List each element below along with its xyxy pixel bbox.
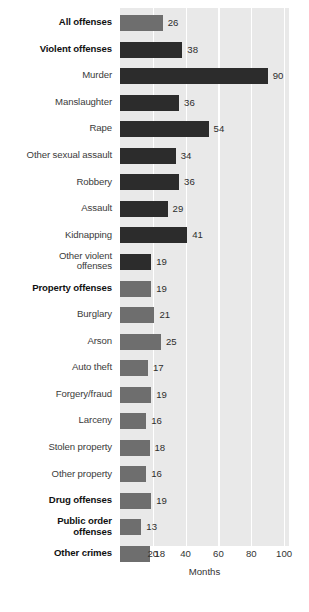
category-label-line1: Robbery — [76, 176, 112, 187]
category-label-line1: Auto theft — [72, 361, 112, 372]
bar-value-label: 18 — [155, 440, 166, 456]
category-label-line1: Stolen property — [48, 441, 112, 452]
category-label: Forgery/fraud — [0, 389, 117, 400]
bar — [120, 307, 154, 323]
category-label-line1: Other crimes — [54, 547, 112, 558]
bar — [120, 174, 179, 190]
bar — [120, 413, 146, 429]
bar — [120, 254, 151, 270]
category-label-line1: Other property — [52, 468, 112, 479]
category-label: Rape — [0, 123, 117, 134]
plot-area: 2638903654343629411919212517191618161913… — [120, 8, 289, 546]
category-label: Burglary — [0, 309, 117, 320]
bar-value-label: 26 — [168, 15, 179, 31]
bar-value-label: 36 — [184, 174, 195, 190]
category-label: Murder — [0, 70, 117, 81]
gridline-60 — [218, 8, 219, 546]
x-tick-60: 60 — [213, 548, 224, 560]
x-tick-20: 20 — [147, 548, 158, 560]
bar — [120, 68, 268, 84]
gridline-40 — [186, 8, 187, 546]
category-label: Drug offenses — [0, 495, 117, 506]
category-label-line1: All offenses — [59, 16, 112, 27]
bar — [120, 95, 179, 111]
bar-value-label: 29 — [173, 201, 184, 217]
x-tick-80: 80 — [246, 548, 257, 560]
bar-value-label: 13 — [146, 519, 157, 535]
category-label: Other crimes — [0, 548, 117, 559]
category-label: Robbery — [0, 177, 117, 188]
category-label: Kidnapping — [0, 230, 117, 241]
category-label-line1: Kidnapping — [65, 229, 112, 240]
bar-value-label: 38 — [187, 42, 198, 58]
category-label-line1: Burglary — [77, 308, 112, 319]
category-label-line1: Violent offenses — [40, 43, 112, 54]
category-label-line1: Drug offenses — [49, 494, 112, 505]
bar-value-label: 34 — [181, 148, 192, 164]
gridline-80 — [251, 8, 252, 546]
category-label: Other property — [0, 469, 117, 480]
bar — [120, 360, 148, 376]
category-label-line2: offenses — [0, 527, 112, 538]
category-label: Auto theft — [0, 362, 117, 373]
category-label: Property offenses — [0, 283, 117, 294]
category-label: Stolen property — [0, 442, 117, 453]
category-label-line1: Forgery/fraud — [56, 388, 112, 399]
bar-value-label: 90 — [273, 68, 284, 84]
bar-value-label: 19 — [156, 387, 167, 403]
category-label-line1: Arson — [87, 335, 112, 346]
category-label: Larceny — [0, 415, 117, 426]
category-label-line1: Assault — [81, 202, 112, 213]
bar-value-label: 54 — [214, 121, 225, 137]
bar — [120, 227, 187, 243]
bar — [120, 15, 163, 31]
gridline-100 — [284, 8, 285, 546]
category-label-line1: Rape — [89, 122, 112, 133]
category-label-line1: Murder — [82, 69, 112, 80]
bar-value-label: 19 — [156, 493, 167, 509]
bar-value-label: 16 — [151, 466, 162, 482]
category-label-line1: Other violent — [59, 250, 112, 261]
category-label: Other violentoffenses — [0, 251, 117, 272]
category-label-line1: Larceny — [79, 414, 112, 425]
category-label: Violent offenses — [0, 44, 117, 55]
bar-value-label: 19 — [156, 281, 167, 297]
category-label: Public orderoffenses — [0, 516, 117, 537]
bar-value-label: 17 — [153, 360, 164, 376]
x-tick-40: 40 — [180, 548, 191, 560]
bar-value-label: 41 — [192, 227, 203, 243]
bar — [120, 121, 209, 137]
category-label: Manslaughter — [0, 97, 117, 108]
bar-chart: All offensesViolent offensesMurderMansla… — [0, 0, 309, 612]
category-label-line2: offenses — [0, 261, 112, 272]
bar-value-label: 21 — [159, 307, 170, 323]
x-axis-tick-labels: 20406080100 — [120, 548, 309, 562]
bar — [120, 493, 151, 509]
category-label: All offenses — [0, 17, 117, 28]
bar — [120, 148, 176, 164]
bar — [120, 519, 141, 535]
category-label-line1: Public order — [57, 515, 112, 526]
x-axis-title: Months — [120, 566, 289, 577]
bar — [120, 334, 161, 350]
gridline-20 — [153, 8, 154, 546]
bar — [120, 387, 151, 403]
x-tick-100: 100 — [276, 548, 292, 560]
category-label-line1: Property offenses — [32, 282, 112, 293]
bar — [120, 42, 182, 58]
bar-value-label: 25 — [166, 334, 177, 350]
category-label-line1: Manslaughter — [55, 96, 112, 107]
category-label: Arson — [0, 336, 117, 347]
category-label: Assault — [0, 203, 117, 214]
bar — [120, 466, 146, 482]
bar — [120, 201, 168, 217]
bar — [120, 281, 151, 297]
bar-value-label: 19 — [156, 254, 167, 270]
bar — [120, 440, 150, 456]
category-label: Other sexual assault — [0, 150, 117, 161]
bar-value-label: 36 — [184, 95, 195, 111]
bar-value-label: 16 — [151, 413, 162, 429]
category-label-line1: Other sexual assault — [27, 149, 112, 160]
